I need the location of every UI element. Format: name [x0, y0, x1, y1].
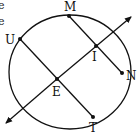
label-I: I — [92, 50, 97, 64]
label-M: M — [64, 0, 76, 14]
geometry-diagram: e e M U I N E T — [0, 0, 138, 132]
label-E: E — [52, 85, 61, 99]
point-M — [67, 14, 71, 18]
point-T — [91, 115, 95, 119]
clipped-text-fragment: e — [0, 0, 5, 12]
point-I — [94, 44, 98, 48]
point-N — [120, 71, 124, 75]
line-EI-arrow-up — [57, 17, 131, 79]
point-U — [18, 37, 22, 41]
label-T: T — [89, 121, 97, 132]
label-U: U — [5, 33, 15, 47]
label-N: N — [126, 69, 137, 83]
point-E — [55, 77, 59, 81]
clipped-text-fragment: e — [0, 15, 5, 28]
